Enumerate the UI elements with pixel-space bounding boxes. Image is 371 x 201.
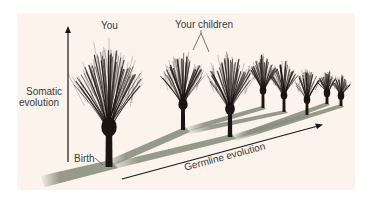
somatic-evolution-arrow: [65, 26, 71, 162]
your-children-label: Your children: [175, 19, 233, 30]
somatic-evolution-label-line2: evolution: [19, 97, 59, 108]
somatic-evolution-label-line1: Somatic: [26, 86, 62, 97]
tree-shadows: [40, 102, 344, 187]
tree-grandchild-4: [317, 70, 335, 104]
birth-label: Birth: [74, 153, 95, 164]
children-pointer-lines: [193, 30, 209, 52]
tree-you: [68, 38, 142, 167]
trees: [68, 38, 351, 167]
you-label: You: [101, 20, 118, 31]
tree-child-1: [160, 52, 205, 130]
